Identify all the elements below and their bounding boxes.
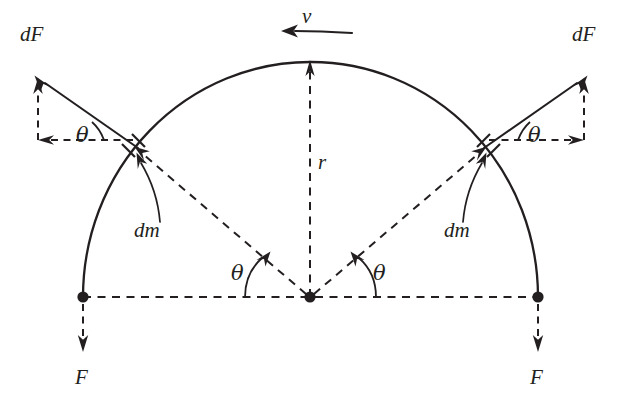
angle-arc-center-left-group [245, 252, 271, 298]
dm-leader-right-group [463, 153, 487, 223]
dm-leader-line-right [463, 163, 482, 222]
label-velocity: v [302, 6, 311, 27]
angle-arc-upper-left [92, 122, 104, 140]
arc-endpoint-dot-left [77, 291, 88, 302]
label-dF-right: dF [572, 24, 595, 45]
label-radius: r [318, 152, 326, 173]
F-force-right-group [533, 304, 543, 352]
label-theta-upper-right: θ [528, 125, 541, 146]
angle-arc-center-left [245, 258, 262, 297]
F-force-left-group [78, 304, 88, 352]
velocity-arrow-shaft [295, 31, 352, 33]
dm-leader-right-arrowhead [476, 153, 487, 170]
radius-line-group [305, 60, 314, 297]
radial-dashed-line-left [144, 155, 306, 294]
label-F-right: F [530, 367, 543, 388]
label-dF-left: dF [20, 24, 43, 45]
label-dm-left: dm [134, 220, 160, 241]
dm-leader-line-left [141, 163, 160, 222]
velocity-arrow-group [281, 25, 352, 38]
dm-leader-left-group [137, 153, 161, 223]
label-theta-center-right: θ [373, 263, 386, 284]
diagram-canvas [0, 0, 619, 406]
angle-arc-upper-left-group [92, 122, 104, 140]
label-theta-center-left: θ [231, 263, 244, 284]
F-force-left-arrowhead [78, 335, 88, 352]
physics-diagram: dF dF θ θ θ θ dm dm r v F F [0, 0, 619, 406]
center-dot [304, 291, 315, 302]
label-theta-upper-left: θ [76, 125, 89, 146]
F-force-right-arrowhead [533, 335, 543, 352]
dF-vector-left-shaft [45, 83, 138, 148]
label-dm-right: dm [444, 220, 470, 241]
label-F-left: F [75, 367, 88, 388]
arc-endpoint-dot-right [532, 291, 543, 302]
